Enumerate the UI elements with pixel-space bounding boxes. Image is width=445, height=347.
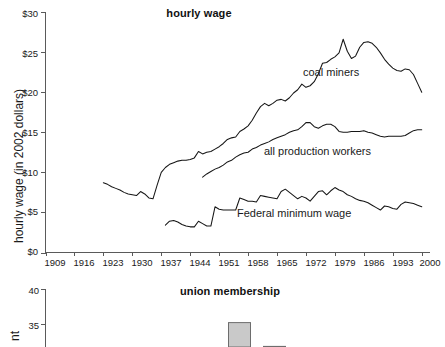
hourly-wage-plot-area: [0, 0, 434, 270]
union-membership-chart: union membership nt 40 35: [0, 275, 434, 347]
union-membership-plot-area: [0, 275, 434, 347]
bottom-axes: [41, 289, 46, 347]
series-label-federal-minimum-wage: Federal minimum wage: [237, 207, 351, 219]
series-label-all-production-workers: all production workers: [264, 145, 371, 157]
top-axes: [41, 12, 430, 256]
series-label-coal-miners: coal miners: [303, 66, 359, 78]
bar-group: [229, 323, 286, 347]
series-line-coal-miners: [103, 39, 421, 199]
bar-1: [229, 323, 251, 347]
